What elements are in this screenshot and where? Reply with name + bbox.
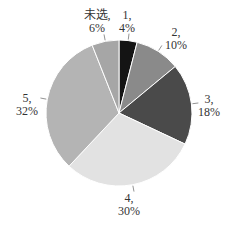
label-slice-unselected: 未选, 6%	[84, 9, 111, 35]
label-slice-3: 3, 18%	[198, 93, 220, 119]
label-slice-5: 5, 32%	[16, 92, 38, 118]
label-slice-3-pct: 18%	[198, 106, 220, 119]
label-slice-4: 4, 30%	[118, 192, 140, 218]
label-slice-2: 2, 10%	[165, 26, 187, 52]
label-slice-2-pct: 10%	[165, 39, 187, 52]
label-slice-1-pct: 4%	[119, 22, 135, 35]
pie-slices	[46, 40, 192, 186]
leader-line	[104, 34, 105, 40]
label-slice-unselected-pct: 6%	[84, 22, 111, 35]
leader-line	[159, 45, 162, 50]
label-slice-1: 1, 4%	[119, 9, 135, 35]
label-slice-5-pct: 32%	[16, 105, 38, 118]
label-slice-4-pct: 30%	[118, 205, 140, 218]
leader-line	[40, 98, 46, 99]
